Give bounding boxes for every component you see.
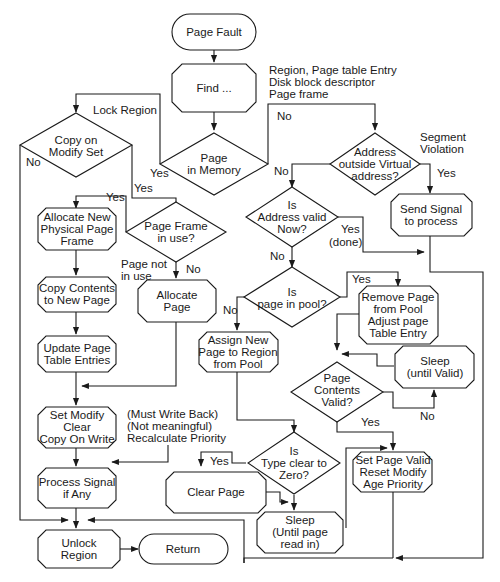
label-line: from Pool [362,303,435,315]
label-line: Zero? [261,469,327,481]
note-line: Segment [420,131,466,143]
segment-violation-note: SegmentViolation [420,131,466,155]
label-line: Clear [39,421,114,433]
label-line: outside Virtual [339,158,412,170]
page-not-in-use-note: Page notin use [121,258,167,282]
label-line: (until Valid) [407,367,464,379]
address-outside-label: Addressoutside Virtualaddress? [339,146,412,182]
type-clear-zero-label: IsType clear toZero? [261,445,327,481]
lock-region-note: Lock Region [93,104,157,116]
allocate-new-frame-label: Allocate NewPhysical PageFrame [41,211,114,247]
page-frame-in-use-label: Page Framein use? [144,220,207,244]
label-line: in use? [144,232,207,244]
label-line: Copy on [49,134,103,146]
label-line: Process Signal [39,476,116,488]
note-line: Region, Page table Entry [269,64,397,76]
set-page-valid-label: Set Page ValidReset ModifyAge Priority [355,454,430,490]
label-line: to process [400,215,462,227]
page-in-pool-label: Ispage in pool? [257,286,326,310]
label-line: Allocate [157,289,198,301]
edge-label-zero-yes: Yes [210,455,229,467]
note-line: Violation [420,143,466,155]
label-line: Contents [314,384,360,396]
label-line: Modify Set [49,146,103,158]
edge-label-valid-no: No [270,250,285,262]
label-line: in Memory [187,164,241,176]
send-signal-label: Send Signalto process [400,203,462,227]
unlock-region-label: UnlockRegion [61,537,97,561]
note-line: Recalculate Priority [127,432,226,444]
label-line: Is [257,286,326,298]
label-line: Page [314,372,360,384]
label-line: Update Page [43,342,110,354]
note-line: Disk block descriptor [269,76,397,88]
clear-page-label: Clear Page [187,486,245,498]
label-line: read in) [272,538,328,550]
label-line: Table Entries [43,354,110,366]
page-in-memory-label: Pagein Memory [187,152,241,176]
label-line: Adjust page [362,315,435,327]
label-line: Age Priority [355,478,430,490]
label-line: page in pool? [257,298,326,310]
label-line: Is [261,445,327,457]
label-line: Page to Region [198,346,277,358]
find-label: Find ... [196,82,231,94]
note-line: Page not [121,258,167,270]
label-line: (Until page [272,526,328,538]
edge-label-mem-yes: Yes [150,167,169,179]
sleep-until-read-label: Sleep(Until pageread in) [272,514,328,550]
label-line: Page Frame [144,220,207,232]
page-fault-label: Page Fault [186,26,242,38]
remove-from-pool-label: Remove Pagefrom PoolAdjust pageTable Ent… [362,291,435,339]
label-line: to New Page [39,294,115,306]
note-line: in use [121,270,167,282]
label-line: address? [339,170,412,182]
edge-label-pool-no: No [223,304,238,316]
label-line: Physical Page [41,223,114,235]
label-line: Type clear to [261,457,327,469]
label-line: Reset Modify [355,466,430,478]
note-line: (Must Write Back) [127,408,226,420]
edge-label-pool-yes: Yes [352,273,371,285]
page-contents-valid-label: PageContentsValid? [314,372,360,408]
return-label: Return [166,543,201,555]
sleep-until-valid-label: Sleep(until Valid) [407,355,464,379]
label-line: Page Fault [186,26,242,38]
label-line: Valid? [314,396,360,408]
edge-label-com-yes: Yes [134,182,153,194]
note-line: Page frame [269,88,397,100]
label-line: Frame [41,235,114,247]
must-write-back-note: (Must Write Back)(Not meaningful)Recalcu… [127,408,226,444]
note-line: (Not meaningful) [127,420,226,432]
label-line: if Any [39,488,116,500]
label-line: Page [187,152,241,164]
label-line: Allocate New [41,211,114,223]
label-line: Sleep [272,514,328,526]
label-line: Copy On Write [39,433,114,445]
label-line: Send Signal [400,203,462,215]
label-line: Sleep [407,355,464,367]
copy-on-modify-label: Copy onModify Set [49,134,103,158]
label-line: Address valid [257,211,326,223]
find-outputs-note: Region, Page table EntryDisk block descr… [269,64,397,100]
edge-label-contents-yes: Yes [361,416,380,428]
label-line: from Pool [198,358,277,370]
note-line: Lock Region [93,104,157,116]
edge-label-com-no: No [26,156,41,168]
label-line: Unlock [61,537,97,549]
edge-label-mem-no: No [277,110,292,122]
label-line: Address [339,146,412,158]
label-line: Remove Page [362,291,435,303]
label-line: Copy Contents [39,282,115,294]
label-line: Set Modify [39,409,114,421]
label-line: Find ... [196,82,231,94]
edge-label-contents-no: No [420,410,435,422]
label-line: Is [257,199,326,211]
set-modify-label: Set ModifyClearCopy On Write [39,409,114,445]
label-line: Set Page Valid [355,454,430,466]
edge-label-valid-done: (done) [329,236,362,248]
label-line: Table Entry [362,327,435,339]
edge-label-pf-yes: Yes [106,191,125,203]
label-line: Region [61,549,97,561]
edge-label-addr-yes: Yes [437,167,456,179]
